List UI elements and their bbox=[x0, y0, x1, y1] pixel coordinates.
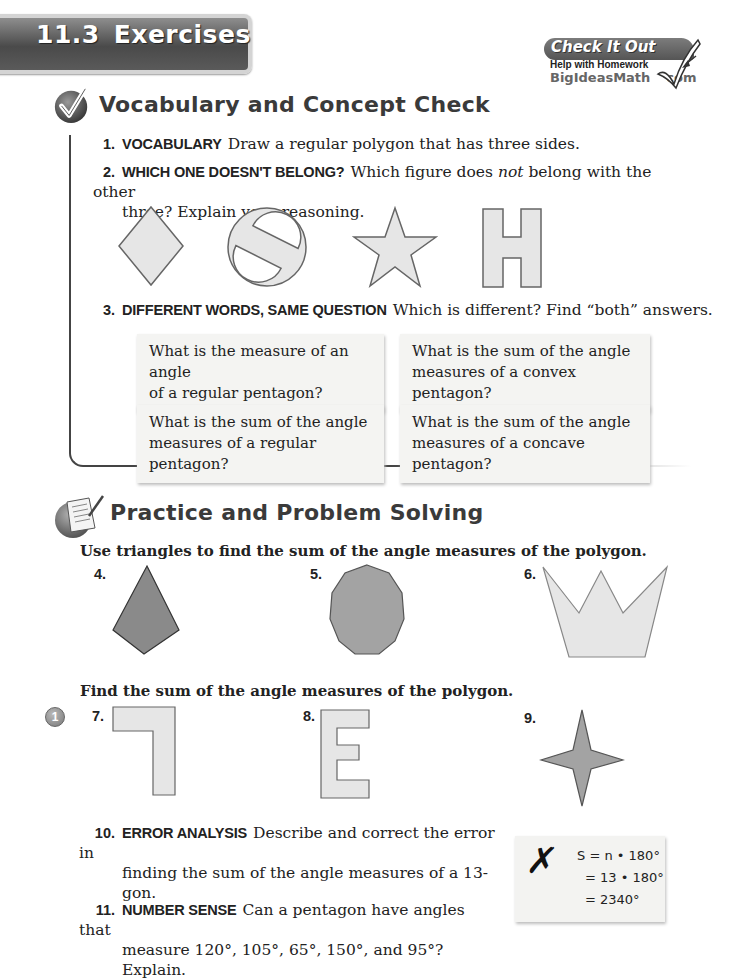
card-line: What is the sum of the angle bbox=[149, 412, 374, 433]
question-number: 11. bbox=[79, 900, 115, 920]
problem-number-6: 6. bbox=[524, 566, 536, 582]
x-mark-icon: ✗ bbox=[524, 840, 560, 881]
question-card-1: What is the measure of an angle of a reg… bbox=[137, 334, 384, 412]
card-line: measures of a regular pentagon? bbox=[149, 433, 374, 475]
section-number: 11.3 bbox=[36, 20, 100, 49]
star-figure bbox=[352, 206, 438, 288]
card-line: measures of a concave pentagon? bbox=[412, 433, 640, 475]
error-analysis-card: ✗ S = n • 180° = 13 • 180° = 2340° bbox=[515, 836, 665, 922]
section-title: Exercises bbox=[114, 20, 251, 49]
question-keyword: DIFFERENT WORDS, SAME QUESTION bbox=[122, 302, 387, 318]
logo-title: Check It Out bbox=[551, 38, 656, 56]
logo-site-name: BigIdeasMath bbox=[550, 70, 650, 85]
question-number: 1. bbox=[93, 134, 115, 154]
question-number: 3. bbox=[93, 300, 115, 320]
circle-slash-figure bbox=[226, 206, 308, 288]
error-line-1: S = n • 180° bbox=[577, 848, 660, 863]
question-text-line2: measure 120°, 105°, 65°, 150°, and 95°? … bbox=[79, 940, 499, 980]
question-text: Which is different? Find “both” answers. bbox=[393, 301, 713, 319]
problem-number-7: 7. bbox=[92, 708, 104, 724]
question-keyword: WHICH ONE DOESN'T BELONG? bbox=[122, 164, 344, 180]
problem-number-4: 4. bbox=[94, 566, 106, 582]
problem-number-8: 8. bbox=[303, 708, 315, 724]
card-line: of a regular pentagon? bbox=[149, 383, 374, 404]
question-text: Draw a regular polygon that has three si… bbox=[228, 135, 580, 153]
checkmark-icon bbox=[656, 38, 702, 90]
checkmark-circle-icon bbox=[53, 86, 91, 124]
problem-number-9: 9. bbox=[524, 710, 536, 726]
instruction-find-sum: Find the sum of the angle measures of th… bbox=[80, 682, 513, 700]
question-keyword: ERROR ANALYSIS bbox=[122, 825, 247, 841]
question-10: 10.ERROR ANALYSISDescribe and correct th… bbox=[79, 823, 499, 903]
error-line-2: = 13 • 180° bbox=[585, 870, 664, 885]
four-point-star-figure bbox=[539, 708, 625, 808]
practice-section-title: Practice and Problem Solving bbox=[110, 500, 484, 525]
card-line: What is the sum of the angle bbox=[412, 412, 640, 433]
decagon-figure bbox=[327, 563, 407, 657]
homework-paper-pencil-icon bbox=[53, 494, 105, 540]
question-11: 11.NUMBER SENSECan a pentagon have angle… bbox=[79, 900, 499, 980]
question-text: Which figure does bbox=[350, 163, 493, 181]
letter-h-figure bbox=[481, 207, 543, 289]
example-reference-badge[interactable]: 1 bbox=[45, 707, 65, 727]
error-line-3: = 2340° bbox=[585, 892, 640, 907]
question-keyword: VOCABULARY bbox=[122, 136, 222, 152]
question-1: 1.VOCABULARYDraw a regular polygon that … bbox=[93, 134, 580, 154]
crown-figure bbox=[541, 565, 671, 659]
rhombus-figure bbox=[117, 205, 185, 287]
letter-e-figure bbox=[319, 708, 371, 800]
vocab-section-title: Vocabulary and Concept Check bbox=[99, 92, 490, 117]
question-keyword: NUMBER SENSE bbox=[122, 902, 236, 918]
logo-subtitle: Help with Homework bbox=[550, 59, 648, 70]
card-line: measures of a convex pentagon? bbox=[412, 362, 640, 404]
seven-shape-figure bbox=[111, 705, 177, 797]
instruction-triangles: Use triangles to find the sum of the ang… bbox=[80, 542, 647, 560]
question-card-3: What is the sum of the angle measures of… bbox=[137, 405, 384, 483]
question-3: 3.DIFFERENT WORDS, SAME QUESTIONWhich is… bbox=[93, 300, 713, 320]
question-card-2: What is the sum of the angle measures of… bbox=[400, 334, 650, 412]
problem-number-5: 5. bbox=[310, 566, 322, 582]
section-heading: 11.3Exercises bbox=[36, 20, 251, 49]
kite-figure bbox=[111, 564, 181, 656]
question-number: 2. bbox=[93, 162, 115, 182]
card-line: What is the sum of the angle bbox=[412, 341, 640, 362]
question-text-line2: finding the sum of the angle measures of… bbox=[79, 863, 499, 903]
card-line: What is the measure of an angle bbox=[149, 341, 374, 383]
question-number: 10. bbox=[79, 823, 115, 843]
question-text-italic: not bbox=[498, 163, 524, 181]
check-it-out-logo[interactable]: Check It Out Help with Homework BigIdeas… bbox=[538, 34, 708, 90]
question-card-4: What is the sum of the angle measures of… bbox=[400, 405, 650, 483]
